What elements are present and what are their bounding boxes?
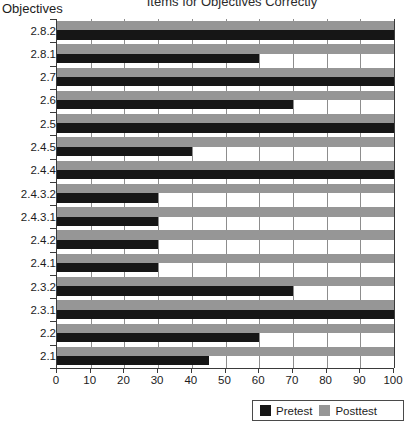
legend-swatch-icon xyxy=(260,405,271,416)
bar-posttest xyxy=(57,300,394,309)
legend-label: Pretest xyxy=(276,405,312,417)
bar-posttest-band xyxy=(57,114,394,123)
chart-legend: PretestPosttest xyxy=(252,400,404,421)
bar-pretest-band xyxy=(57,77,394,86)
bar-posttest xyxy=(57,21,394,30)
bar-pretest xyxy=(57,30,394,39)
bar-pretest-band xyxy=(57,147,394,156)
legend-label: Posttest xyxy=(335,405,377,417)
bar-pretest xyxy=(57,77,394,86)
legend-item: Pretest xyxy=(260,405,312,417)
y-tick-label: 2.4.4 xyxy=(6,164,56,176)
bar-posttest xyxy=(57,114,394,123)
bar-posttest xyxy=(57,254,394,263)
x-tick-label: 100 xyxy=(373,374,412,386)
plot-area xyxy=(56,19,395,368)
bar-row xyxy=(57,66,394,89)
y-tick-label: 2.7 xyxy=(6,71,56,83)
x-tick-mark xyxy=(393,368,394,373)
bar-pretest-band xyxy=(57,123,394,132)
bar-row xyxy=(57,252,394,275)
x-tick-mark xyxy=(258,368,259,373)
bar-pretest xyxy=(57,123,394,132)
bar-posttest-band xyxy=(57,21,394,30)
bar-posttest xyxy=(57,324,394,333)
bar-pretest xyxy=(57,356,209,365)
y-tick-label: 2.4.3.1 xyxy=(6,211,56,223)
bar-pretest-band xyxy=(57,356,394,365)
x-tick-mark xyxy=(225,368,226,373)
bar-pretest-band xyxy=(57,263,394,272)
y-tick-label: 2.5 xyxy=(6,118,56,130)
bar-pretest xyxy=(57,193,158,202)
bar-row xyxy=(57,89,394,112)
bar-pretest xyxy=(57,147,192,156)
chart-screenshot: Items for Objectives Correctly Objective… xyxy=(0,0,412,425)
y-tick-label: 2.8.1 xyxy=(6,48,56,60)
bar-posttest-band xyxy=(57,68,394,77)
x-tick-mark xyxy=(292,368,293,373)
bar-pretest xyxy=(57,100,293,109)
x-tick-mark xyxy=(123,368,124,373)
bar-posttest-band xyxy=(57,184,394,193)
bar-pretest xyxy=(57,54,259,63)
bar-posttest xyxy=(57,347,394,356)
x-tick-mark xyxy=(191,368,192,373)
y-tick-label: 2.3.1 xyxy=(6,304,56,316)
bar-posttest-band xyxy=(57,277,394,286)
y-tick-label: 2.4.1 xyxy=(6,257,56,269)
bar-row xyxy=(57,159,394,182)
bar-pretest-band xyxy=(57,240,394,249)
bar-row xyxy=(57,135,394,158)
bar-posttest-band xyxy=(57,300,394,309)
x-tick-mark xyxy=(359,368,360,373)
chart-title: Items for Objectives Correctly xyxy=(112,0,352,9)
bar-posttest xyxy=(57,184,394,193)
y-tick-label: 2.4.2 xyxy=(6,234,56,246)
bar-row xyxy=(57,228,394,251)
bar-posttest xyxy=(57,68,394,77)
x-tick-mark xyxy=(90,368,91,373)
x-tick-mark xyxy=(157,368,158,373)
y-tick-label: 2.1 xyxy=(6,350,56,362)
y-tick-label: 2.2 xyxy=(6,327,56,339)
y-axis-title: Objectives xyxy=(2,1,63,16)
y-tick-label: 2.6 xyxy=(6,94,56,106)
bar-row xyxy=(57,205,394,228)
legend-swatch-icon xyxy=(319,405,330,416)
bar-pretest xyxy=(57,240,158,249)
bar-row xyxy=(57,275,394,298)
bar-posttest-band xyxy=(57,91,394,100)
bar-row xyxy=(57,42,394,65)
bar-pretest xyxy=(57,217,158,226)
bar-posttest-band xyxy=(57,230,394,239)
bar-row xyxy=(57,321,394,344)
bar-posttest xyxy=(57,91,394,100)
bar-posttest xyxy=(57,161,394,170)
bar-posttest-band xyxy=(57,137,394,146)
bar-pretest xyxy=(57,333,259,342)
bar-pretest-band xyxy=(57,333,394,342)
bar-pretest-band xyxy=(57,100,394,109)
bar-posttest xyxy=(57,137,394,146)
y-tick-label: 2.4.5 xyxy=(6,141,56,153)
x-tick-mark xyxy=(326,368,327,373)
bar-rows xyxy=(57,19,394,368)
bar-posttest-band xyxy=(57,44,394,53)
bar-row xyxy=(57,19,394,42)
legend-item: Posttest xyxy=(319,405,377,417)
bar-posttest xyxy=(57,44,394,53)
y-tick-label: 2.3.2 xyxy=(6,281,56,293)
bar-pretest-band xyxy=(57,30,394,39)
bar-pretest xyxy=(57,286,293,295)
bar-row xyxy=(57,182,394,205)
y-tick-label: 2.8.2 xyxy=(6,25,56,37)
bar-pretest xyxy=(57,170,394,179)
bar-posttest-band xyxy=(57,207,394,216)
bar-pretest-band xyxy=(57,170,394,179)
bar-row xyxy=(57,298,394,321)
y-axis: 2.8.22.8.12.72.62.52.4.52.4.42.4.3.22.4.… xyxy=(0,19,56,368)
bar-pretest xyxy=(57,310,394,319)
bar-pretest-band xyxy=(57,286,394,295)
bar-pretest-band xyxy=(57,54,394,63)
